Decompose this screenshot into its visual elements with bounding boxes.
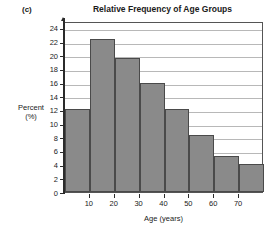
y-axis-tick-label: 10 <box>40 120 58 129</box>
y-axis-tick <box>60 84 64 85</box>
y-axis-tick-label: 4 <box>40 161 58 170</box>
y-axis-tick <box>60 152 64 153</box>
y-axis-tick-label: 6 <box>40 147 58 156</box>
bar <box>214 156 239 192</box>
x-axis-tick-label: 60 <box>201 199 225 208</box>
bar <box>239 164 264 192</box>
y-axis-tick <box>60 29 64 30</box>
bar <box>165 109 190 192</box>
y-axis-title-line1: Percent <box>6 103 56 112</box>
x-axis-tick <box>139 194 140 198</box>
y-axis-line <box>63 18 65 194</box>
y-axis-tick-label: 8 <box>40 134 58 143</box>
y-axis-tick-label: 0 <box>40 189 58 198</box>
x-axis-title: Age (years) <box>64 214 263 223</box>
x-axis-tick-label: 30 <box>127 199 151 208</box>
y-axis-tick <box>60 56 64 57</box>
y-axis-tick-label: 18 <box>40 65 58 74</box>
bar <box>140 83 165 192</box>
y-axis-tick <box>60 125 64 126</box>
figure-panel: (c) Relative Frequency of Age Groups 024… <box>0 0 276 228</box>
x-axis-tick <box>164 194 165 198</box>
y-axis-tick-label: 16 <box>40 79 58 88</box>
y-axis-title-line2: (%) <box>6 112 56 121</box>
y-axis-tick <box>60 111 64 112</box>
x-axis-tick <box>238 194 239 198</box>
y-axis-tick <box>60 138 64 139</box>
bar-series <box>65 23 262 192</box>
y-axis-tick-label: 22 <box>40 38 58 47</box>
y-axis-tick <box>60 166 64 167</box>
x-axis-tick <box>89 194 90 198</box>
x-axis-tick-label: 10 <box>77 199 101 208</box>
x-axis-tick <box>188 194 189 198</box>
x-axis-tick <box>114 194 115 198</box>
y-axis-tick-label: 2 <box>40 175 58 184</box>
x-axis-tick <box>213 194 214 198</box>
y-axis-tick <box>60 70 64 71</box>
plot-area <box>64 22 263 193</box>
y-axis-tick <box>60 43 64 44</box>
y-axis-tick <box>60 193 64 194</box>
y-axis-tick <box>60 97 64 98</box>
x-axis-tick-label: 50 <box>176 199 200 208</box>
bar <box>90 39 115 192</box>
y-axis-tick-label: 20 <box>40 52 58 61</box>
y-axis-arrow-icon <box>61 17 65 21</box>
y-axis-tick <box>60 179 64 180</box>
y-axis-tick-label: 14 <box>40 93 58 102</box>
y-axis-tick-label: 24 <box>40 24 58 33</box>
bar <box>115 58 140 192</box>
bar <box>189 135 214 192</box>
bar <box>65 109 90 192</box>
y-axis-title: Percent (%) <box>6 103 56 121</box>
x-axis-tick-label: 70 <box>226 199 250 208</box>
x-axis-tick-label: 40 <box>152 199 176 208</box>
chart-title: Relative Frequency of Age Groups <box>60 4 265 14</box>
panel-label: (c) <box>22 5 32 14</box>
x-axis-tick-label: 20 <box>102 199 126 208</box>
